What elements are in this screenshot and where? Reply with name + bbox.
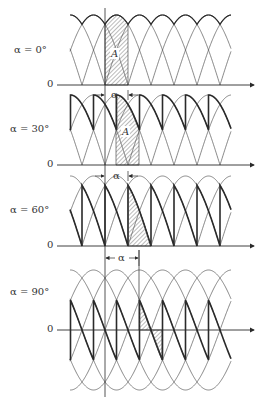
phase-voltage-curve [70,270,105,330]
phase-voltage-curve [70,15,105,85]
phase-voltage-curve [70,129,82,165]
panel-alpha-60 [57,176,254,266]
phase-voltage-curve [174,330,231,390]
phase-voltage-curve [220,131,231,165]
phase-voltage-curve [174,176,231,246]
panel-label-alpha-90: α = 90° [10,286,49,297]
phase-voltage-curve [197,176,231,246]
panel-alpha-90 [57,250,254,390]
phase-voltage-curve [70,95,105,165]
output-voltage-envelope [70,15,231,24]
phase-voltage-curve [220,51,231,85]
phase-voltage-curve [70,49,82,85]
phase-voltage-curve [174,15,231,85]
phase-voltage-curve [70,176,105,246]
panel-label-alpha-60: α = 60° [10,204,49,215]
phase-voltage-curve [197,15,231,85]
area-label-alpha-0: A [110,48,119,59]
panel-label-alpha-30: α = 30° [10,123,49,134]
output-voltage-envelope [70,95,231,130]
panel-alpha-0 [57,15,254,100]
zero-label-alpha-90: 0 [47,323,53,334]
phase-voltage-curve [220,212,231,246]
panels-group [57,15,254,390]
phase-voltage-curve [197,95,231,165]
zero-label-alpha-60: 0 [47,239,53,250]
panel-alpha-30 [57,95,254,181]
hatched-area-A [128,185,151,246]
alpha-marker-label-0: α [111,89,118,100]
zero-label-alpha-0: 0 [47,78,53,89]
alpha-marker-label-60: α [118,252,125,263]
phase-voltage-curve [174,95,231,165]
area-label-alpha-30: A [121,126,130,137]
zero-label-alpha-30: 0 [47,158,53,169]
alpha-marker-label-30: α [113,170,120,181]
panel-label-alpha-0: α = 0° [14,44,47,55]
